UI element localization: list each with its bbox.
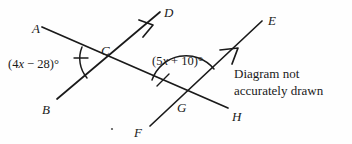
- diagram-note-line-2: accurately drawn: [234, 83, 323, 100]
- point-label-D: D: [164, 6, 173, 19]
- arrowhead-FE-icon: [220, 48, 238, 64]
- angle-C-prefix: (4: [8, 57, 18, 71]
- angle-label-at-G: (5x + 10)°: [152, 55, 203, 68]
- point-label-C: C: [101, 44, 110, 57]
- angle-G-suffix: + 10)°: [168, 54, 203, 68]
- point-label-F: F: [134, 126, 142, 139]
- point-label-G: G: [177, 101, 186, 114]
- angle-label-at-C: (4x − 28)°: [8, 58, 59, 71]
- angle-C-suffix: − 28)°: [24, 57, 59, 71]
- geometry-diagram: A B C D E F G H (4x − 28)° (5x + 10)° Di…: [0, 0, 352, 144]
- angle-tick-at-G: [157, 74, 169, 86]
- angle-arc-at-C: [80, 47, 87, 78]
- point-label-B: B: [42, 103, 50, 116]
- point-label-A: A: [32, 22, 40, 35]
- diagram-note: Diagram not accurately drawn: [234, 66, 323, 99]
- point-label-E: E: [268, 14, 276, 27]
- stray-dot: [111, 128, 113, 130]
- point-label-H: H: [232, 110, 241, 123]
- angle-G-prefix: (5: [152, 54, 162, 68]
- diagram-note-line-1: Diagram not: [234, 66, 323, 83]
